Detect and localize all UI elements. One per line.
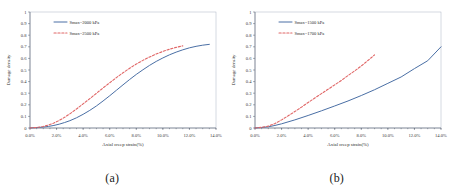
y-tick-label: 0.1 <box>245 114 251 119</box>
y-tick-label: 0.9 <box>245 21 251 26</box>
chart-panel-b: 00.10.20.30.40.50.60.70.80.910.0%2.0%4.0… <box>225 0 449 187</box>
x-tick-label: 4.0% <box>78 133 88 138</box>
y-tick-label: 0.4 <box>245 79 251 84</box>
y-tick-label: 0.9 <box>21 21 27 26</box>
x-tick-label: 6.0% <box>105 133 115 138</box>
y-axis-title: Damage density <box>6 54 11 86</box>
y-tick-label: 0 <box>24 126 27 131</box>
legend-label-1: Smax=2000 kPa <box>70 20 100 25</box>
y-tick-label: 0.3 <box>245 91 251 96</box>
x-tick-label: 0.0% <box>250 133 260 138</box>
x-tick-label: 12.0% <box>183 133 195 138</box>
y-tick-label: 0.8 <box>21 33 27 38</box>
y-tick-label: 0.5 <box>245 68 251 73</box>
x-tick-label: 6.0% <box>329 133 339 138</box>
x-axis-title: Axial creep strain(%) <box>102 142 144 147</box>
x-tick-label: 4.0% <box>303 133 313 138</box>
y-tick-label: 0.2 <box>245 102 251 107</box>
y-tick-label: 0.8 <box>245 33 251 38</box>
y-tick-label: 1 <box>24 10 27 15</box>
x-tick-label: 14.0% <box>210 133 222 138</box>
caption-b: (b) <box>225 171 449 186</box>
chart-a-svg: 00.10.20.30.40.50.60.70.80.910.0%2.0%4.0… <box>0 0 225 160</box>
x-tick-label: 2.0% <box>276 133 286 138</box>
chart-b-plot-area: 00.10.20.30.40.50.60.70.80.910.0%2.0%4.0… <box>225 0 449 160</box>
legend-label-2: Smax=2500 kPa <box>70 31 100 36</box>
series-curve-2 <box>255 55 375 128</box>
y-axis-title: Damage density <box>231 54 236 86</box>
y-tick-label: 0.6 <box>245 56 251 61</box>
x-tick-label: 14.0% <box>435 133 447 138</box>
x-tick-label: 8.0% <box>131 133 141 138</box>
y-tick-label: 0.2 <box>21 102 27 107</box>
y-tick-label: 0.4 <box>21 79 27 84</box>
x-tick-label: 0.0% <box>25 133 35 138</box>
chart-a-plot-area: 00.10.20.30.40.50.60.70.80.910.0%2.0%4.0… <box>0 0 225 160</box>
plot-frame <box>30 12 216 128</box>
series-curve-1 <box>255 47 441 128</box>
y-tick-label: 0.7 <box>21 44 27 49</box>
caption-a: (a) <box>0 171 225 186</box>
legend-label-2: Smax=1700 kPa <box>294 31 324 36</box>
y-tick-label: 0.3 <box>21 91 27 96</box>
series-curve-2 <box>30 46 183 128</box>
x-tick-label: 10.0% <box>157 133 169 138</box>
series-curve-1 <box>30 44 209 128</box>
chart-b-svg: 00.10.20.30.40.50.60.70.80.910.0%2.0%4.0… <box>225 0 449 160</box>
y-tick-label: 0.7 <box>245 44 251 49</box>
y-tick-label: 0.6 <box>21 56 27 61</box>
x-tick-label: 12.0% <box>408 133 420 138</box>
y-tick-label: 0.1 <box>21 114 27 119</box>
x-tick-label: 10.0% <box>381 133 393 138</box>
x-tick-label: 2.0% <box>52 133 62 138</box>
figure-panel-row: 00.10.20.30.40.50.60.70.80.910.0%2.0%4.0… <box>0 0 449 187</box>
y-tick-label: 1 <box>249 10 252 15</box>
legend-label-1: Smax=1500 kPa <box>294 20 324 25</box>
x-axis-title: Axial creep strain(%) <box>327 142 369 147</box>
x-tick-label: 8.0% <box>356 133 366 138</box>
chart-panel-a: 00.10.20.30.40.50.60.70.80.910.0%2.0%4.0… <box>0 0 225 187</box>
y-tick-label: 0 <box>249 126 252 131</box>
y-tick-label: 0.5 <box>21 68 27 73</box>
